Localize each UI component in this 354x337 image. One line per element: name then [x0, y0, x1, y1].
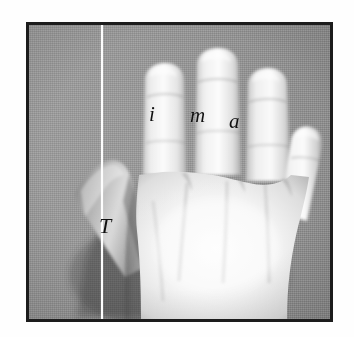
figure-container: i m a T	[0, 0, 354, 337]
photo-vignette	[29, 25, 330, 319]
finger-label-ring: a	[229, 111, 240, 132]
photo-canvas: i m a T	[29, 25, 330, 319]
finger-label-index: i	[149, 104, 155, 125]
finger-label-thumb: T	[99, 215, 111, 237]
photo-frame: i m a T	[26, 22, 333, 322]
vertical-reference-line	[101, 25, 103, 319]
finger-label-middle: m	[190, 105, 205, 126]
